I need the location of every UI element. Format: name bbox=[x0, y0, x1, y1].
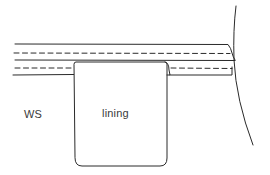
waistband-bottom-edge-left bbox=[13, 75, 74, 76]
wrong-side-label: WS bbox=[24, 108, 42, 120]
lining-label: lining bbox=[102, 107, 129, 119]
waistband-top-edge bbox=[15, 44, 235, 60]
stitching-line-upper bbox=[14, 53, 230, 54]
waistband-fold-line bbox=[15, 60, 235, 61]
sewing-diagram: WS lining bbox=[0, 0, 270, 175]
stitching-line-lower-right bbox=[171, 68, 232, 69]
garment-side-curve bbox=[234, 6, 253, 145]
diagram-canvas bbox=[0, 0, 270, 175]
